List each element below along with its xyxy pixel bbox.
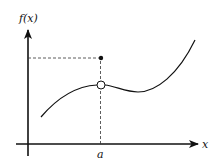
y-axis-label: f(x) [18, 12, 38, 25]
point-a-label: a [97, 148, 104, 161]
open-circle-hole [97, 81, 105, 89]
graph-svg: f(x) x a [0, 0, 221, 164]
filled-dot-value [99, 56, 103, 60]
function-graph: f(x) x a [0, 0, 221, 164]
x-axis-label: x [202, 138, 209, 151]
function-curve [41, 40, 195, 117]
